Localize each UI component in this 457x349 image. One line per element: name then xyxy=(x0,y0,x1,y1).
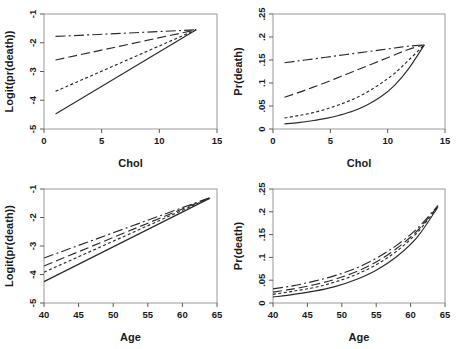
x-tick-label: 5 xyxy=(99,135,105,146)
curve-group-2 xyxy=(56,30,197,60)
y-tick-label: 0 xyxy=(256,300,267,305)
x-tick-label: 40 xyxy=(268,309,279,320)
y-axis-title: Pr(death) xyxy=(232,222,244,271)
curve-group-4 xyxy=(284,45,424,124)
y-axis-title: Pr(death) xyxy=(232,47,244,96)
x-tick-label: 5 xyxy=(328,135,334,146)
x-tick-label: 0 xyxy=(270,135,275,146)
y-tick-label: -1 xyxy=(27,9,38,18)
curve-group-3 xyxy=(284,45,424,118)
curve-group-1 xyxy=(273,205,438,288)
x-tick-label: 45 xyxy=(302,309,313,320)
y-tick-label: .2 xyxy=(256,208,267,216)
y-tick-label: -1 xyxy=(27,184,38,193)
y-tick-label: -3 xyxy=(27,67,38,75)
y-tick-label: .1 xyxy=(256,78,267,87)
y-tick-label: -2 xyxy=(27,213,38,221)
x-tick-label: 10 xyxy=(382,135,393,146)
y-tick-label: .25 xyxy=(256,7,267,21)
x-tick-label: 10 xyxy=(154,135,165,146)
y-tick-label: -5 xyxy=(27,124,38,133)
y-tick-label: .1 xyxy=(256,253,267,262)
x-tick-label: 60 xyxy=(177,309,188,320)
x-axis-title: Chol xyxy=(118,157,142,169)
x-tick-label: 50 xyxy=(108,309,119,320)
panel-top-left: 051015-1-2-3-4-5CholLogit(pr(death)) xyxy=(0,0,229,175)
curve-group-3 xyxy=(56,30,197,92)
curve-group-4 xyxy=(44,198,210,282)
x-tick-label: 60 xyxy=(405,309,416,320)
curve-group-1 xyxy=(44,198,210,258)
y-axis-title: Logit(pr(death)) xyxy=(3,205,15,287)
panel-bottom-left: 404550556065-1-2-3-4-5AgeLogit(pr(death)… xyxy=(0,175,229,349)
curve-group-3 xyxy=(273,206,438,294)
y-tick-label: -2 xyxy=(27,39,38,47)
x-tick-label: 55 xyxy=(371,309,382,320)
x-axis-title: Age xyxy=(349,331,370,343)
x-tick-label: 65 xyxy=(212,309,223,320)
y-tick-label: .05 xyxy=(256,99,267,113)
y-tick-label: .2 xyxy=(256,33,267,41)
y-tick-label: .15 xyxy=(256,227,267,241)
x-axis-title: Chol xyxy=(347,157,371,169)
x-axis-title: Age xyxy=(120,331,141,343)
panel-bottom-left-plot: 404550556065-1-2-3-4-5AgeLogit(pr(death)… xyxy=(0,175,229,349)
panel-top-right: 0510150.05.1.15.2.25CholPr(death) xyxy=(229,0,457,175)
y-tick-label: .15 xyxy=(256,53,267,67)
curve-group-4 xyxy=(56,30,197,114)
x-tick-label: 40 xyxy=(39,309,50,320)
y-tick-label: .25 xyxy=(256,182,267,196)
x-tick-label: 50 xyxy=(337,309,348,320)
panel-top-left-plot: 051015-1-2-3-4-5CholLogit(pr(death)) xyxy=(0,0,229,175)
y-tick-label: -5 xyxy=(27,298,38,307)
x-tick-label: 15 xyxy=(212,135,223,146)
panel-bottom-right-plot: 4045505560650.05.1.15.2.25AgePr(death) xyxy=(229,175,457,349)
curve-group-2 xyxy=(284,45,424,97)
x-tick-label: 15 xyxy=(440,135,451,146)
plot-frame xyxy=(44,189,217,303)
panel-top-right-plot: 0510150.05.1.15.2.25CholPr(death) xyxy=(229,0,457,175)
y-tick-label: .05 xyxy=(256,273,267,287)
plot-frame xyxy=(273,189,445,303)
y-tick-label: -3 xyxy=(27,242,38,250)
x-tick-label: 0 xyxy=(41,135,46,146)
y-tick-label: -4 xyxy=(27,95,38,104)
curve-group-3 xyxy=(44,198,210,272)
curve-group-1 xyxy=(284,45,424,63)
y-axis-title: Logit(pr(death)) xyxy=(3,30,15,112)
x-tick-label: 45 xyxy=(73,309,84,320)
x-tick-label: 55 xyxy=(143,309,154,320)
curve-group-4 xyxy=(273,207,438,297)
y-tick-label: 0 xyxy=(256,126,267,131)
panel-bottom-right: 4045505560650.05.1.15.2.25AgePr(death) xyxy=(229,175,457,349)
y-tick-label: -4 xyxy=(27,270,38,279)
x-tick-label: 65 xyxy=(440,309,451,320)
plot-frame xyxy=(273,14,445,129)
curve-group-1 xyxy=(56,30,197,37)
curve-group-2 xyxy=(44,198,210,266)
figure-canvas: 051015-1-2-3-4-5CholLogit(pr(death))0510… xyxy=(0,0,457,349)
